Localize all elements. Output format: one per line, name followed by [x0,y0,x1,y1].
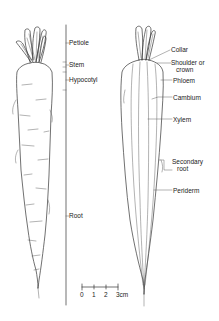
scale-bar [82,284,118,290]
label-collar: Collar [171,46,188,53]
label-secondary-root-line2: root [177,165,188,172]
right-carrot-leaves [136,26,156,60]
label-xylem: Xylem [173,116,191,123]
label-root: Root [69,212,83,219]
label-shoulder-line1: Shoulder or [171,59,205,66]
right-carrot-body [121,59,163,306]
right-leader-lines [148,50,172,190]
scale-tick-3cm: 3cm [116,291,128,298]
label-petiole: Petiole [69,39,89,46]
label-hypocotyl: Hypocotyl [69,76,98,83]
left-carrot-leaves [16,27,46,62]
carrot-anatomy-diagram: Petiole Stem Hypocotyl Root Collar Shoul… [0,0,219,321]
label-secondary-root-line1: Secondary [172,158,203,165]
label-periderm: Periderm [173,187,199,194]
label-stem: Stem [69,61,84,68]
scale-tick-0: 0 [80,291,84,298]
label-phloem: Phloem [173,77,195,84]
left-carrot-body [13,62,53,298]
label-cambium: Cambium [173,94,201,101]
label-shoulder-line2: crown [176,66,193,73]
scale-tick-1: 1 [92,291,96,298]
scale-tick-2: 2 [104,291,108,298]
